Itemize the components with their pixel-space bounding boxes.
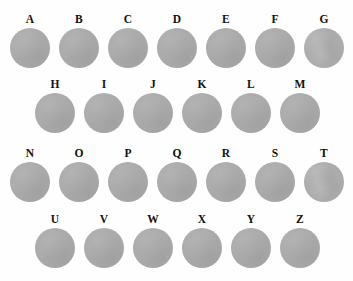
- specimen-label: H: [50, 78, 59, 91]
- specimen-disc-icon[interactable]: [108, 28, 148, 68]
- specimen-disc-icon[interactable]: [59, 162, 99, 202]
- specimen-cell-k[interactable]: K: [182, 78, 222, 133]
- specimen-disc-icon[interactable]: [157, 162, 197, 202]
- specimen-cell-h[interactable]: H: [35, 78, 75, 133]
- specimen-label: K: [197, 78, 206, 91]
- specimen-disc-icon[interactable]: [231, 93, 271, 133]
- specimen-row-1: ABCDEFG: [10, 13, 344, 68]
- specimen-disc-icon[interactable]: [84, 228, 124, 268]
- specimen-cell-m[interactable]: M: [280, 78, 320, 133]
- specimen-label: I: [102, 78, 107, 91]
- specimen-cell-r[interactable]: R: [206, 147, 246, 202]
- specimen-disc-icon[interactable]: [35, 228, 75, 268]
- specimen-cell-n[interactable]: N: [10, 147, 50, 202]
- specimen-disc-icon[interactable]: [133, 228, 173, 268]
- specimen-disc-icon[interactable]: [84, 93, 124, 133]
- specimen-label: J: [150, 78, 156, 91]
- specimen-cell-d[interactable]: D: [157, 13, 197, 68]
- specimen-cell-e[interactable]: E: [206, 13, 246, 68]
- specimen-cell-y[interactable]: Y: [231, 213, 271, 268]
- specimen-disc-icon[interactable]: [133, 93, 173, 133]
- specimen-cell-f[interactable]: F: [255, 13, 295, 68]
- specimen-label: P: [124, 147, 131, 160]
- specimen-label: A: [26, 13, 35, 26]
- specimen-label: U: [51, 213, 60, 226]
- specimen-label: T: [320, 147, 328, 160]
- specimen-disc-icon[interactable]: [206, 162, 246, 202]
- specimen-disc-icon[interactable]: [108, 162, 148, 202]
- specimen-cell-p[interactable]: P: [108, 147, 148, 202]
- specimen-label: E: [222, 13, 230, 26]
- specimen-disc-icon[interactable]: [157, 28, 197, 68]
- specimen-disc-icon[interactable]: [206, 28, 246, 68]
- specimen-label: Q: [172, 147, 181, 160]
- specimen-cell-u[interactable]: U: [35, 213, 75, 268]
- specimen-label: W: [147, 213, 159, 226]
- specimen-cell-v[interactable]: V: [84, 213, 124, 268]
- specimen-disc-icon[interactable]: [304, 28, 344, 68]
- specimen-disc-icon[interactable]: [35, 93, 75, 133]
- specimen-cell-t[interactable]: T: [304, 147, 344, 202]
- specimen-disc-icon[interactable]: [231, 228, 271, 268]
- specimen-disc-icon[interactable]: [182, 228, 222, 268]
- specimen-label: N: [26, 147, 35, 160]
- specimen-cell-a[interactable]: A: [10, 13, 50, 68]
- specimen-cell-i[interactable]: I: [84, 78, 124, 133]
- specimen-cell-z[interactable]: Z: [280, 213, 320, 268]
- specimen-row-2: HIJKLM: [35, 78, 320, 133]
- specimen-label: X: [198, 213, 207, 226]
- specimen-label: Z: [296, 213, 304, 226]
- specimen-label: C: [124, 13, 133, 26]
- specimen-disc-icon[interactable]: [304, 162, 344, 202]
- specimen-cell-q[interactable]: Q: [157, 147, 197, 202]
- specimen-cell-c[interactable]: C: [108, 13, 148, 68]
- specimen-cell-x[interactable]: X: [182, 213, 222, 268]
- specimen-label: F: [271, 13, 278, 26]
- specimen-label: Y: [247, 213, 256, 226]
- specimen-disc-icon[interactable]: [10, 162, 50, 202]
- specimen-cell-l[interactable]: L: [231, 78, 271, 133]
- specimen-label: O: [74, 147, 83, 160]
- specimen-label: S: [272, 147, 279, 160]
- specimen-disc-icon[interactable]: [59, 28, 99, 68]
- specimen-disc-icon[interactable]: [280, 93, 320, 133]
- specimen-cell-s[interactable]: S: [255, 147, 295, 202]
- specimen-label: L: [247, 78, 255, 91]
- specimen-cell-b[interactable]: B: [59, 13, 99, 68]
- specimen-cell-j[interactable]: J: [133, 78, 173, 133]
- specimen-label: B: [75, 13, 83, 26]
- specimen-row-3: NOPQRST: [10, 147, 344, 202]
- specimen-label: M: [294, 78, 305, 91]
- specimen-figure-panel: ABCDEFGHIJKLMNOPQRSTUVWXYZ: [0, 0, 353, 281]
- specimen-row-4: UVWXYZ: [35, 213, 320, 268]
- specimen-disc-icon[interactable]: [182, 93, 222, 133]
- specimen-cell-w[interactable]: W: [133, 213, 173, 268]
- specimen-label: R: [222, 147, 231, 160]
- specimen-label: V: [100, 213, 109, 226]
- specimen-disc-icon[interactable]: [10, 28, 50, 68]
- specimen-disc-icon[interactable]: [255, 162, 295, 202]
- specimen-label: D: [173, 13, 182, 26]
- specimen-cell-o[interactable]: O: [59, 147, 99, 202]
- specimen-disc-icon[interactable]: [255, 28, 295, 68]
- specimen-label: G: [319, 13, 328, 26]
- specimen-cell-g[interactable]: G: [304, 13, 344, 68]
- specimen-disc-icon[interactable]: [280, 228, 320, 268]
